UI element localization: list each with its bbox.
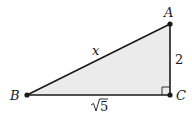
side-bc-label: 5 [91,99,108,114]
vertex-b-label: B [9,88,20,103]
triangle-diagram: A B C x 2 5 [0,0,192,115]
side-ab-label: x [92,43,100,58]
side-bc-radicand: 5 [100,99,108,114]
vertex-c-label: C [176,88,186,103]
vertex-c-point [167,92,172,97]
side-ac-label: 2 [175,52,183,67]
vertex-b-point [24,92,29,97]
vertex-a-label: A [163,5,173,20]
vertex-a-point [167,21,172,26]
